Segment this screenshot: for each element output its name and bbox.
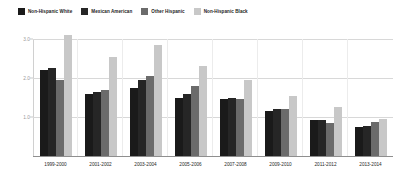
- bar-group: [168, 39, 213, 156]
- bar[interactable]: [154, 45, 162, 156]
- bar-group: [123, 39, 168, 156]
- bar-groups: [33, 39, 393, 156]
- bar[interactable]: [138, 80, 146, 156]
- bar[interactable]: [191, 86, 199, 156]
- legend-label: Mexican American: [91, 8, 132, 15]
- bar[interactable]: [355, 127, 363, 156]
- bar[interactable]: [363, 126, 371, 156]
- bar-group: [303, 39, 348, 156]
- y-tick-label: 3.0: [23, 37, 30, 42]
- bar-group: [258, 39, 303, 156]
- bar[interactable]: [244, 80, 252, 156]
- legend-item[interactable]: Non-Hispanic Black: [194, 8, 248, 15]
- legend-label: Non-Hispanic White: [28, 8, 72, 15]
- bar[interactable]: [281, 109, 289, 156]
- bar-group: [213, 39, 258, 156]
- legend-swatch-icon: [141, 8, 148, 15]
- bar-group: [33, 39, 78, 156]
- legend-item[interactable]: Other Hispanic: [141, 8, 184, 15]
- legend-item[interactable]: Non-Hispanic White: [18, 8, 72, 15]
- x-axis-labels: 1999-20002001-20022003-20042005-20062007…: [33, 160, 393, 172]
- bar[interactable]: [56, 80, 64, 156]
- bar[interactable]: [183, 94, 191, 156]
- bar[interactable]: [101, 90, 109, 156]
- x-axis-label: 2007-2008: [213, 160, 258, 172]
- legend-label: Other Hispanic: [151, 8, 184, 15]
- legend-swatch-icon: [194, 8, 201, 15]
- y-tick-label: 2.0: [23, 76, 30, 81]
- legend-swatch-icon: [18, 8, 25, 15]
- bar-group: [78, 39, 123, 156]
- legend-swatch-icon: [81, 8, 88, 15]
- x-axis-label: 2003-2004: [123, 160, 168, 172]
- bar[interactable]: [109, 57, 117, 156]
- bar[interactable]: [85, 94, 93, 156]
- bar-chart: Non-Hispanic WhiteMexican AmericanOther …: [0, 0, 406, 178]
- bar[interactable]: [220, 99, 228, 156]
- bar[interactable]: [334, 107, 342, 156]
- bar[interactable]: [310, 120, 318, 156]
- legend-label: Non-Hispanic Black: [204, 8, 248, 15]
- bar[interactable]: [40, 70, 48, 156]
- bar[interactable]: [199, 66, 207, 156]
- x-axis-label: 2011-2012: [303, 160, 348, 172]
- bar[interactable]: [48, 68, 56, 156]
- bar[interactable]: [236, 99, 244, 156]
- x-axis-label: 2001-2002: [78, 160, 123, 172]
- bar[interactable]: [326, 123, 334, 156]
- bar[interactable]: [146, 76, 154, 156]
- bar[interactable]: [228, 98, 236, 157]
- bar[interactable]: [273, 109, 281, 156]
- plot-area: 3.02.01.0: [33, 39, 393, 156]
- x-axis-label: 1999-2000: [33, 160, 78, 172]
- bar[interactable]: [130, 88, 138, 156]
- bar-group: [348, 39, 393, 156]
- bar[interactable]: [379, 119, 387, 156]
- bar[interactable]: [265, 111, 273, 156]
- bar[interactable]: [318, 120, 326, 156]
- x-axis-label: 2009-2010: [258, 160, 303, 172]
- bar[interactable]: [175, 98, 183, 157]
- bar[interactable]: [289, 96, 297, 156]
- x-axis-label: 2005-2006: [168, 160, 213, 172]
- bar[interactable]: [64, 35, 72, 156]
- chart-legend: Non-Hispanic WhiteMexican AmericanOther …: [18, 8, 248, 15]
- bar[interactable]: [371, 122, 379, 156]
- bar[interactable]: [93, 92, 101, 156]
- x-axis-line: [33, 156, 393, 157]
- x-axis-label: 2013-2014: [348, 160, 393, 172]
- legend-item[interactable]: Mexican American: [81, 8, 132, 15]
- y-tick-label: 1.0: [23, 115, 30, 120]
